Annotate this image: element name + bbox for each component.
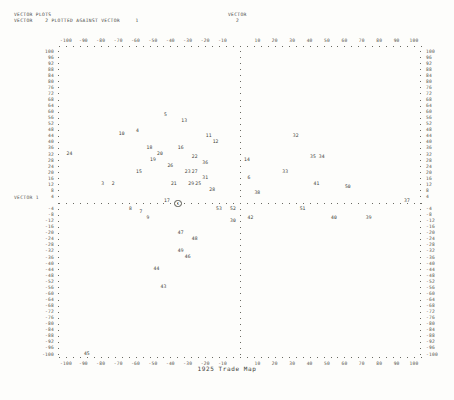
axis-tick-dot [66, 203, 67, 204]
axis-tick-dot [94, 203, 95, 204]
axis-tick-dot [247, 203, 248, 204]
axis-tick-dot [115, 46, 116, 47]
data-point-label[interactable]: 33 [282, 169, 288, 174]
data-point-label[interactable]: 6 [247, 175, 250, 180]
data-point-label[interactable]: 51 [300, 206, 306, 211]
data-point-label[interactable]: 39 [366, 215, 372, 220]
data-point-label[interactable]: 10 [119, 131, 125, 136]
axis-tick-dot [344, 46, 345, 47]
y-tick-label-left: 80 [38, 79, 54, 84]
data-point-label[interactable]: 26 [167, 163, 173, 168]
axis-tick-dot [143, 357, 144, 358]
axis-tick-dot [58, 336, 59, 337]
axis-tick-dot [240, 46, 241, 47]
data-point-label[interactable]: 47 [178, 230, 184, 235]
y-tick-label-right: -12 [426, 218, 442, 223]
data-point-label[interactable]: 11 [206, 133, 212, 138]
axis-tick-dot [129, 46, 130, 47]
data-point-label[interactable]: 7 [140, 209, 143, 214]
data-point-label[interactable]: 52 [230, 206, 236, 211]
data-point-label[interactable]: 32 [293, 133, 299, 138]
axis-tick-dot [136, 357, 137, 358]
y-tick-label-left: -68 [38, 303, 54, 308]
data-point-label[interactable]: 21 [171, 181, 177, 186]
data-point-label[interactable]: 28 [209, 187, 215, 192]
data-point-label[interactable]: 36 [202, 160, 208, 165]
axis-tick-dot [240, 287, 241, 288]
data-point-label[interactable]: 1 [174, 200, 182, 208]
y-tick-label-right: 28 [426, 158, 442, 163]
axis-tick-dot [58, 184, 59, 185]
data-point-label[interactable]: 22 [192, 154, 198, 159]
axis-tick-dot [58, 281, 59, 282]
data-point-label[interactable]: 31 [202, 175, 208, 180]
data-point-label[interactable]: 3 [101, 181, 104, 186]
data-point-label[interactable]: 15 [136, 169, 142, 174]
axis-tick-dot [254, 203, 255, 204]
data-point-label[interactable]: 5 [164, 112, 167, 117]
data-point-label[interactable]: 44 [153, 266, 159, 271]
axis-tick-dot [420, 184, 421, 185]
data-point-label[interactable]: 2 [112, 181, 115, 186]
data-point-label[interactable]: 42 [247, 215, 253, 220]
axis-tick-dot [240, 142, 241, 143]
data-point-label[interactable]: 30 [230, 218, 236, 223]
x-tick-label-top: -40 [161, 38, 179, 43]
data-point-label[interactable]: 8 [129, 206, 132, 211]
data-point-label[interactable]: 38 [254, 190, 260, 195]
axis-tick-dot [351, 357, 352, 358]
data-point-label[interactable]: 4 [136, 128, 139, 133]
axis-tick-dot [420, 312, 421, 313]
data-point-label[interactable]: 35 [310, 154, 316, 159]
y-tick-label-left: 28 [38, 158, 54, 163]
axis-tick-dot [420, 87, 421, 88]
data-point-label[interactable]: 24 [66, 151, 72, 156]
data-point-label[interactable]: 34 [319, 154, 325, 159]
axis-tick-dot [170, 357, 171, 358]
y-tick-label-right: 8 [426, 188, 442, 193]
axis-tick-dot [115, 203, 116, 204]
y-tick-label-left: -48 [38, 273, 54, 278]
data-point-label[interactable]: 43 [160, 284, 166, 289]
data-point-label[interactable]: 18 [147, 145, 153, 150]
data-point-label[interactable]: 27 [192, 169, 198, 174]
data-point-label[interactable]: 46 [185, 254, 191, 259]
data-point-label[interactable]: 40 [331, 215, 337, 220]
axis-tick-dot [58, 166, 59, 167]
data-point-label[interactable]: 53 [216, 206, 222, 211]
axis-tick-dot [80, 46, 81, 47]
data-point-label[interactable]: 20 [157, 151, 163, 156]
axis-tick-dot [420, 166, 421, 167]
data-point-label[interactable]: 14 [244, 157, 250, 162]
axis-tick-dot [80, 203, 81, 204]
data-point-label[interactable]: 19 [150, 157, 156, 162]
axis-tick-dot [150, 203, 151, 204]
data-point-label[interactable]: 29 [188, 181, 194, 186]
y-tick-label-right: 68 [426, 97, 442, 102]
data-point-label[interactable]: 50 [345, 184, 351, 189]
data-point-label[interactable]: 41 [314, 181, 320, 186]
axis-tick-dot [420, 269, 421, 270]
axis-tick-dot [393, 357, 394, 358]
data-point-label[interactable]: 12 [213, 139, 219, 144]
axis-tick-dot [407, 46, 408, 47]
axis-tick-dot [247, 46, 248, 47]
data-point-label[interactable]: 25 [195, 181, 201, 186]
highlighted-data-point[interactable]: 1 [174, 200, 182, 208]
axis-tick-dot [420, 245, 421, 246]
data-point-label[interactable]: 49 [178, 248, 184, 253]
data-point-label[interactable]: 45 [84, 351, 90, 356]
data-point-label[interactable]: 37 [404, 198, 410, 203]
y-tick-label-right: -4 [426, 206, 442, 211]
data-point-label[interactable]: 13 [181, 118, 187, 123]
data-point-label[interactable]: 16 [178, 145, 184, 150]
y-tick-label-right: -80 [426, 321, 442, 326]
y-tick-label-left: 96 [38, 55, 54, 60]
data-point-label[interactable]: 48 [192, 236, 198, 241]
data-point-label[interactable]: 23 [185, 169, 191, 174]
y-tick-label-right: -52 [426, 279, 442, 284]
y-tick-label-right: 12 [426, 182, 442, 187]
data-point-label[interactable]: 9 [147, 215, 150, 220]
axis-tick-dot [177, 357, 178, 358]
data-point-label[interactable]: 17 [164, 198, 170, 203]
